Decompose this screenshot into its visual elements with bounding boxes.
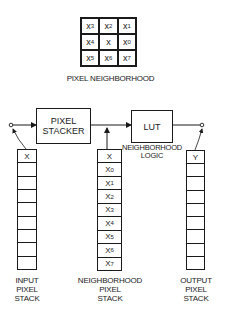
output-pixel-stack: Y (186, 150, 205, 270)
stack-cell (187, 191, 204, 204)
stack-cell-x7: X7 (98, 258, 121, 270)
stack-cell (187, 177, 204, 190)
stack-cell: Y (187, 151, 204, 164)
stack-cell (18, 230, 36, 243)
stack-cell-x2: X2 (98, 190, 121, 203)
stack-cell (18, 203, 36, 216)
stack-cell: X (18, 150, 36, 163)
output-pixel-stack-caption: OUTPUT PIXEL STACK (170, 276, 222, 303)
neighborhood-pixel-stack-caption: NEIGHBORHOOD PIXEL STACK (60, 276, 160, 303)
stack-cell (187, 257, 204, 269)
lut-block: LUT (131, 110, 173, 143)
output-node-icon (200, 123, 204, 127)
stack-cell-x1: X1 (98, 177, 121, 190)
stack-cell-x6: X6 (98, 244, 121, 257)
input-pixel-stack: X (17, 149, 37, 270)
stack-cell (187, 230, 204, 243)
lut-label: LUT (143, 122, 160, 132)
stack-cell (18, 190, 36, 203)
neighborhood-logic-caption: NEIGHBORHOOD LOGIC (116, 144, 188, 160)
stack-cell-x4: X4 (98, 217, 121, 230)
stack-cell (18, 257, 36, 269)
pixel-stacker-label-line1: PIXEL (43, 116, 85, 126)
stack-cell (18, 243, 36, 256)
neighborhood-pixel-stack: X X0 X1 X2 X3 X4 X5 X6 X7 (97, 149, 122, 271)
input-pixel-stack-caption: INPUT PIXEL STACK (2, 276, 52, 303)
stack-cell (187, 244, 204, 257)
stack-cell (18, 177, 36, 190)
pixel-stacker-block: PIXEL STACKER (36, 108, 91, 144)
stack-cell (18, 163, 36, 176)
stack-cell-x3: X3 (98, 204, 121, 217)
stack-cell (187, 164, 204, 177)
input-node-icon (9, 123, 13, 127)
stack-cell-x0: X0 (98, 163, 121, 176)
stack-cell (187, 217, 204, 230)
stack-cell-x: X (98, 150, 121, 163)
stack-cell-x5: X5 (98, 231, 121, 244)
stack-cell (187, 204, 204, 217)
pixel-stacker-label-line2: STACKER (43, 126, 85, 136)
stack-cell (18, 217, 36, 230)
